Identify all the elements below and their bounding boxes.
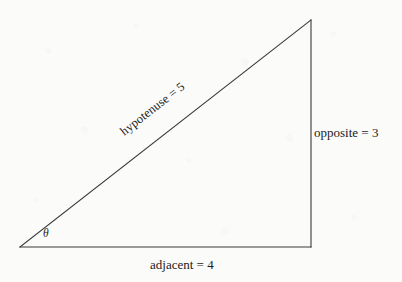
opposite-label: opposite = 3 xyxy=(314,126,378,139)
triangle-diagram-canvas: hypotenuse = 5 opposite = 3 adjacent = 4… xyxy=(0,0,402,282)
adjacent-label: adjacent = 4 xyxy=(150,258,214,271)
theta-angle-label: θ xyxy=(43,228,49,240)
right-triangle-shape xyxy=(0,0,402,282)
hypotenuse-side-line xyxy=(20,20,311,247)
